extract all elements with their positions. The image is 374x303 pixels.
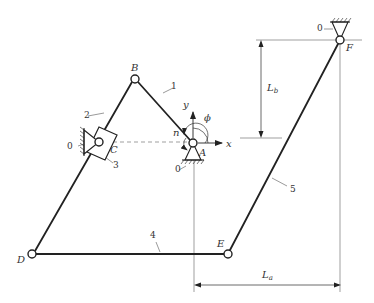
links xyxy=(35,44,338,254)
label-dimension-la: La xyxy=(262,270,273,282)
joint-c xyxy=(95,138,103,146)
label-ground-c: 0 xyxy=(67,142,73,151)
label-link-5: 5 xyxy=(290,185,296,194)
link-1 xyxy=(138,82,190,140)
label-y-axis: y xyxy=(183,100,189,110)
label-link-1: 1 xyxy=(171,82,177,91)
label-link-4: 4 xyxy=(150,231,156,240)
la-main: L xyxy=(262,269,269,280)
dimension-la xyxy=(194,283,341,288)
dimension-lb xyxy=(259,40,264,138)
mechanism-diagram xyxy=(0,0,374,303)
label-link-3: 3 xyxy=(113,161,119,170)
joint-f xyxy=(336,36,344,44)
la-sub: a xyxy=(269,274,273,282)
label-point-e: E xyxy=(217,239,224,249)
label-link-2: 2 xyxy=(84,111,90,120)
label-speed-n: n xyxy=(173,128,179,138)
joints xyxy=(28,36,344,258)
lb-main: L xyxy=(267,82,274,93)
label-angle-phi: ϕ xyxy=(204,113,211,123)
rotation-n-arrow xyxy=(184,138,187,150)
label-point-a: A xyxy=(199,148,206,158)
joint-d xyxy=(28,250,36,258)
joint-b xyxy=(131,75,139,83)
label-point-d: D xyxy=(17,255,25,265)
label-x-axis: x xyxy=(226,139,232,149)
label-point-c: C xyxy=(110,145,118,155)
label-point-f: F xyxy=(346,43,353,53)
label-point-b: B xyxy=(131,63,138,73)
label-ground-f: 0 xyxy=(317,24,323,33)
joint-a xyxy=(189,139,197,147)
joint-e xyxy=(224,250,232,258)
label-dimension-lb: Lb xyxy=(267,83,278,95)
label-ground-a: 0 xyxy=(175,165,181,174)
leader-lines xyxy=(78,29,333,252)
link-5 xyxy=(230,44,338,250)
lb-sub: b xyxy=(274,87,278,95)
